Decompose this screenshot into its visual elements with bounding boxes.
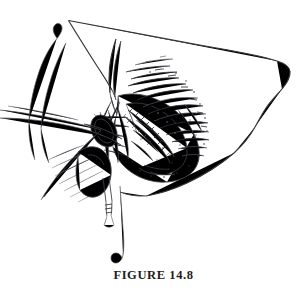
retractor-threads (0, 24, 103, 200)
figure-illustration (0, 0, 307, 268)
hanging-suture-tail (111, 186, 124, 263)
illustration-svg (0, 0, 307, 268)
flap-fold-edge (69, 21, 122, 114)
figure-page: FIGURE 14.8 (0, 0, 307, 291)
figure-caption: FIGURE 14.8 (0, 268, 307, 283)
